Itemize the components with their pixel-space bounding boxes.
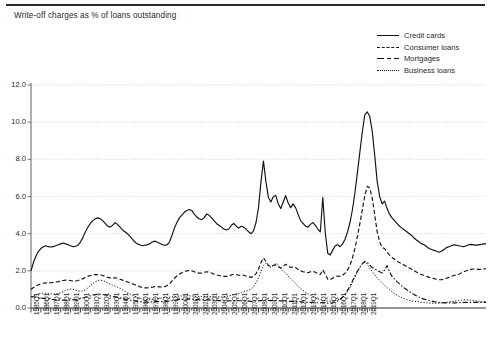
y-axis-label: 2.0 — [2, 267, 26, 275]
y-axis-label: 8.0 — [2, 155, 26, 163]
x-axis-label: 2015Q1 — [330, 293, 337, 315]
y-axis-label: 0.0 — [2, 304, 26, 312]
x-axis-label: 1990Q1 — [83, 293, 90, 315]
x-axis-label: 2018Q1 — [360, 293, 367, 315]
chart-page: Write-off charges as % of loans outstand… — [0, 0, 491, 362]
x-axis-label: 2002Q1 — [202, 293, 209, 315]
x-axis-label: 2013Q1 — [310, 293, 317, 315]
y-axis-label: 4.0 — [2, 230, 26, 238]
x-axis-label: 1991Q1 — [93, 293, 100, 315]
plot-area: 0.02.04.06.08.010.012.01985Q11986Q11987Q… — [0, 0, 491, 362]
x-axis-label: 1993Q1 — [113, 293, 120, 315]
x-axis-label: 1999Q1 — [172, 293, 179, 315]
y-axis-label: 6.0 — [2, 193, 26, 201]
x-axis-label: 2001Q1 — [192, 293, 199, 315]
x-axis-label: 2007Q1 — [251, 293, 258, 315]
x-axis-label: 2016Q1 — [340, 293, 347, 315]
x-axis-label: 2004Q1 — [221, 293, 228, 315]
x-axis-label: 2014Q1 — [320, 293, 327, 315]
x-axis-label: 1992Q1 — [103, 293, 110, 315]
x-axis-label: 1998Q1 — [162, 293, 169, 315]
series-line-credit-cards — [31, 112, 486, 271]
x-axis-label: 2003Q1 — [211, 293, 218, 315]
x-axis-label: 1985Q1 — [33, 293, 40, 315]
x-axis-label: 1989Q1 — [73, 293, 80, 315]
x-axis-label: 1987Q1 — [53, 293, 60, 315]
x-axis-label: 2009Q1 — [271, 293, 278, 315]
x-axis-label: 2017Q1 — [350, 293, 357, 315]
x-axis-label: 1997Q1 — [152, 293, 159, 315]
x-axis-label: 2012Q1 — [300, 293, 307, 315]
y-axis-label: 12.0 — [2, 81, 26, 89]
x-axis-label: 1996Q1 — [142, 293, 149, 315]
x-axis-label: 1986Q1 — [43, 293, 50, 315]
x-axis-label: 1995Q1 — [132, 293, 139, 315]
x-axis-label: 2005Q1 — [231, 293, 238, 315]
x-axis-label: 2010Q1 — [281, 293, 288, 315]
x-axis-label: 2008Q1 — [261, 293, 268, 315]
x-axis-label: 2000Q1 — [182, 293, 189, 315]
x-axis-label: 1988Q1 — [63, 293, 70, 315]
y-axis-label: 10.0 — [2, 118, 26, 126]
x-axis-label: 1994Q1 — [122, 293, 129, 315]
x-axis-label: 2019Q1 — [370, 293, 377, 315]
x-axis-label: 2011Q1 — [291, 293, 298, 315]
x-axis-label: 2006Q1 — [241, 293, 248, 315]
